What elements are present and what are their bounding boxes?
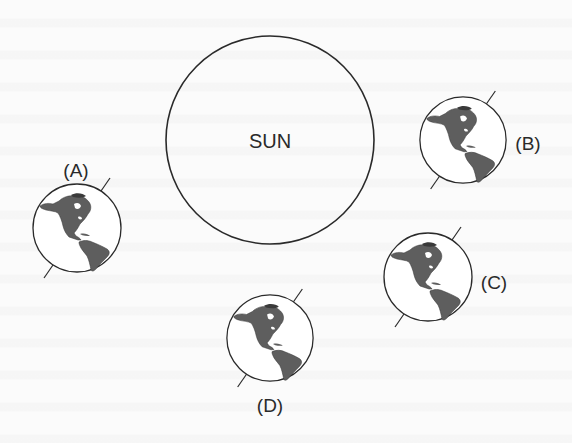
sun-label: SUN [249,131,291,151]
globe-icon [227,289,313,387]
globe-icon [384,227,472,327]
earth-label-b: (B) [515,134,540,153]
earth-position-a [33,178,121,278]
earth-label-a: (A) [63,161,88,180]
earth-position-c [384,227,472,327]
earth-label-d: (D) [257,396,283,415]
globe-icon [420,91,506,189]
earth-position-d [227,289,313,387]
earth-position-b [420,91,506,189]
globe-icon [33,178,121,278]
earth-label-c: (C) [481,273,507,292]
diagram-canvas [0,0,572,443]
